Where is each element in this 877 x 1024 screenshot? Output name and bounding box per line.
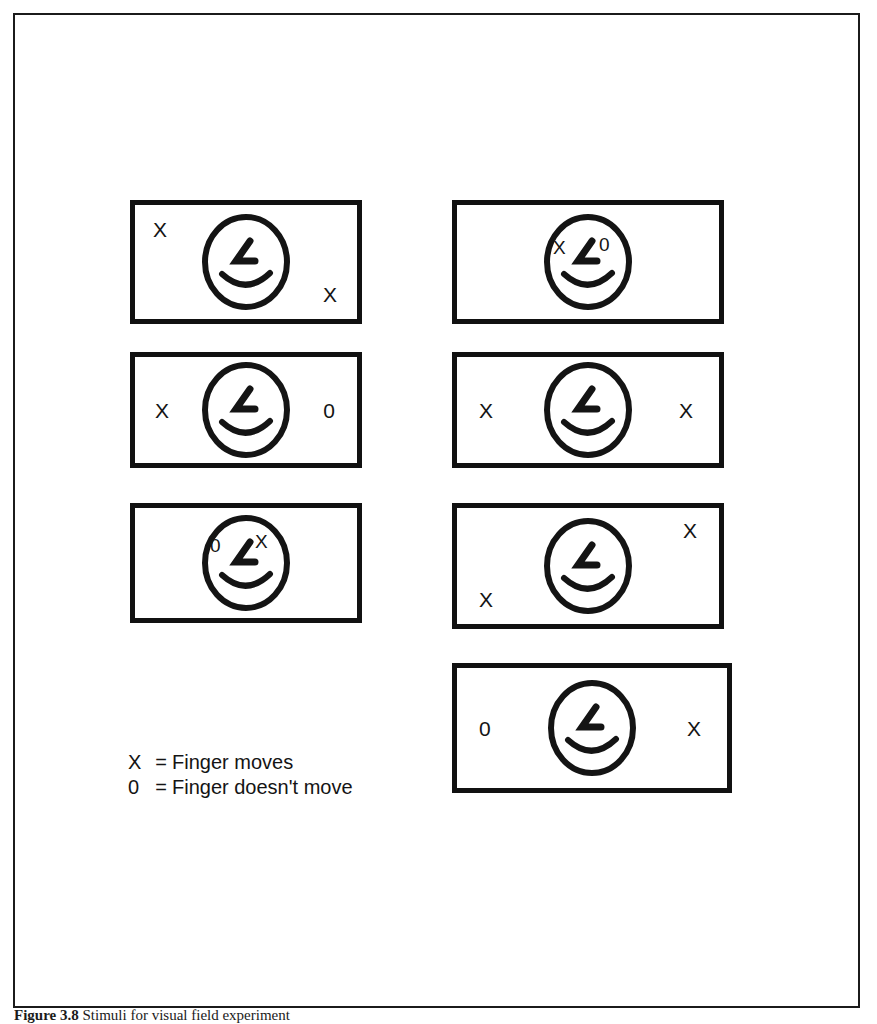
panel-content: 0 X xyxy=(457,668,727,788)
legend-equals: = xyxy=(150,775,172,800)
smiley-face-icon xyxy=(540,359,636,461)
smiley-face-icon: 0 X xyxy=(198,512,294,614)
smiley-face-icon xyxy=(198,211,294,313)
smiley-face-icon xyxy=(198,359,294,461)
smiley-face-icon xyxy=(544,677,640,779)
marker-bottom-right: X xyxy=(323,284,337,305)
legend-symbol-zero: 0 xyxy=(128,775,150,800)
smiley-face-icon: X 0 xyxy=(540,211,636,313)
figure-border: X X X xyxy=(13,13,860,1008)
figure-caption: Figure 3.8 Stimuli for visual field expe… xyxy=(14,1007,854,1024)
marker-face-right-eye: 0 xyxy=(599,235,610,254)
stimulus-panel: 0 X xyxy=(452,663,732,793)
stimulus-panel: X 0 xyxy=(452,200,724,324)
legend-equals: = xyxy=(150,750,172,775)
legend-row-move: X = Finger moves xyxy=(128,750,353,775)
smiley-face-icon xyxy=(540,515,636,617)
panel-content: X X xyxy=(457,357,719,463)
marker-face-left-eye: X xyxy=(553,238,566,257)
marker-middle-right: X xyxy=(687,718,701,739)
panel-content: 0 X xyxy=(135,508,357,618)
panel-content: X 0 xyxy=(457,205,719,319)
marker-middle-left: X xyxy=(479,400,493,421)
stimulus-panel: X X xyxy=(130,200,362,324)
figure-caption-text: Stimuli for visual field experiment xyxy=(82,1007,289,1023)
stimulus-panel: X X xyxy=(452,503,724,629)
legend-symbol-x: X xyxy=(128,750,150,775)
marker-top-left: X xyxy=(153,219,167,240)
stimulus-panel: X X xyxy=(452,352,724,468)
marker-middle-left: X xyxy=(155,400,169,421)
marker-face-left-eye: 0 xyxy=(210,536,221,555)
stimulus-panel: X 0 xyxy=(130,352,362,468)
legend-label-no-move: Finger doesn't move xyxy=(172,775,353,800)
legend-row-no-move: 0 = Finger doesn't move xyxy=(128,775,353,800)
panel-content: X 0 xyxy=(135,357,357,463)
legend-label-move: Finger moves xyxy=(172,750,293,775)
marker-face-right-eye: X xyxy=(255,532,268,551)
legend: X = Finger moves 0 = Finger doesn't move xyxy=(128,750,353,800)
marker-middle-right: X xyxy=(679,400,693,421)
marker-bottom-left: X xyxy=(479,589,493,610)
marker-top-right: X xyxy=(683,520,697,541)
stimulus-panel: 0 X xyxy=(130,503,362,623)
marker-middle-left: 0 xyxy=(479,718,491,739)
marker-middle-right: 0 xyxy=(323,400,335,421)
panel-content: X X xyxy=(135,205,357,319)
figure-caption-number: Figure 3.8 xyxy=(14,1007,79,1023)
panel-content: X X xyxy=(457,508,719,624)
